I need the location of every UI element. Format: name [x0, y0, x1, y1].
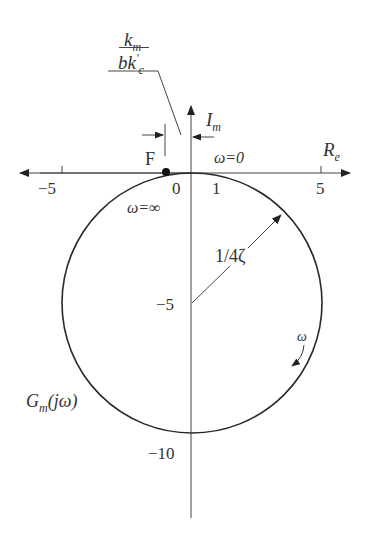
tick-label-x-0: 0 [172, 180, 181, 197]
real-axis-label: Re [323, 140, 340, 163]
imag-axis-label: Im [206, 110, 221, 133]
fraction-denominator: bk′c [118, 52, 144, 76]
fraction-numerator: km [124, 30, 141, 53]
tick-label-y-neg5: −5 [156, 296, 174, 313]
fraction-leader [108, 71, 181, 135]
point-f-dot [162, 168, 170, 176]
tick-label-x-1: 1 [212, 180, 221, 197]
radius-line-lower [192, 266, 230, 303]
point-f-label: F [145, 150, 155, 168]
radius-line-upper [248, 215, 281, 248]
fraction-bar [119, 47, 149, 48]
omega-direction-arrow [292, 345, 304, 366]
curve-label: Gm(jω) [26, 392, 77, 414]
radius-label: 1/4ζ [215, 247, 245, 265]
omega-zero-label: ω=0 [214, 150, 244, 166]
omega-infinity-label: ω=∞ [127, 200, 161, 216]
nyquist-diagram [0, 0, 368, 541]
omega-direction-label: ω [297, 330, 307, 344]
tick-label-x-5: 5 [316, 180, 325, 197]
tick-label-x-neg5: −5 [38, 180, 56, 197]
tick-label-y-neg10: −10 [148, 445, 175, 462]
